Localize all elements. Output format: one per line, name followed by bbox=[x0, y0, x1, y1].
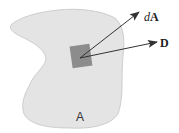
surface-region bbox=[10, 9, 123, 128]
area-vector-label: dA bbox=[144, 10, 159, 24]
region-label: A bbox=[76, 110, 84, 124]
surface-flux-diagram: dA D A bbox=[0, 0, 179, 133]
field-vector-label: D bbox=[160, 36, 169, 50]
